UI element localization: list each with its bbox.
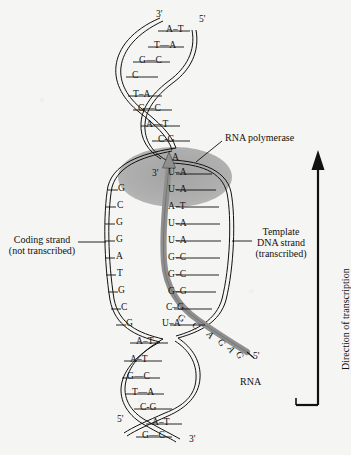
rna-base-unpaired: A bbox=[172, 152, 179, 162]
coding-base: T bbox=[117, 268, 123, 278]
base-pair: A—T bbox=[146, 119, 168, 129]
rna-template-pair: U–A bbox=[168, 167, 187, 177]
coding-base: G bbox=[118, 183, 125, 193]
base-pair: C-G bbox=[140, 402, 156, 412]
rna-template-pair: G–G bbox=[168, 286, 187, 296]
rna-template-pair: G–C bbox=[168, 252, 186, 262]
rna-template-pair: G–C bbox=[168, 269, 186, 279]
coding-strand-label-line1: Coding strand bbox=[4, 234, 80, 245]
base-pair: A–T bbox=[130, 354, 147, 364]
base-pair: T—A bbox=[132, 387, 154, 397]
base-pair: G—C bbox=[142, 430, 165, 440]
coding-base: G bbox=[116, 217, 123, 227]
base-pair: C bbox=[132, 70, 138, 80]
rna-label: RNA bbox=[240, 376, 261, 387]
coding-strand-label: Coding strand (not transcribed) bbox=[4, 234, 80, 256]
coding-base: C bbox=[121, 302, 127, 312]
rna-template-pair: U–A bbox=[168, 218, 187, 228]
template-strand-label-line3: (transcribed) bbox=[248, 248, 314, 259]
coding-strand-label-line2: (not transcribed) bbox=[4, 245, 80, 256]
direction-of-transcription-label: Direction of transcription bbox=[340, 268, 351, 370]
base-pair: G—C bbox=[138, 103, 161, 113]
base-pair: G—C bbox=[127, 371, 150, 381]
prime-bottom-right: 3' bbox=[189, 434, 195, 444]
coding-base: A bbox=[116, 251, 123, 261]
coding-base: G bbox=[126, 318, 133, 328]
base-pair: A–T bbox=[166, 24, 183, 34]
coding-base: G bbox=[116, 234, 123, 244]
direction-arrow bbox=[296, 150, 325, 405]
coding-base: G bbox=[118, 285, 125, 295]
rna-template-pair: C–G bbox=[166, 302, 184, 312]
base-pair: G—C bbox=[139, 55, 162, 65]
prime-top-left: 3' bbox=[156, 9, 162, 19]
base-pair: C-G bbox=[158, 134, 174, 144]
prime-rna-start: 3' bbox=[152, 168, 158, 178]
rna-polymerase-label: RNA polymerase bbox=[225, 132, 294, 143]
rna-template-pair: A–T bbox=[168, 201, 185, 211]
template-strand-label-line2: DNA strand bbox=[248, 237, 314, 248]
rna-template-pair: U–A bbox=[168, 184, 187, 194]
prime-rna-end: 5' bbox=[253, 351, 259, 361]
rna-template-pair: U–A bbox=[168, 235, 187, 245]
template-strand-label: Template DNA strand (transcribed) bbox=[248, 226, 314, 260]
prime-bottom-left: 5' bbox=[117, 414, 123, 424]
prime-top-right: 5' bbox=[199, 14, 205, 24]
base-pair: A–T bbox=[152, 417, 169, 427]
base-pair: T—A bbox=[154, 40, 176, 50]
base-pair: A–T bbox=[136, 336, 153, 346]
base-pair: T–A bbox=[133, 89, 150, 99]
template-strand-label-line1: Template bbox=[248, 226, 314, 237]
coding-base: C bbox=[117, 200, 123, 210]
